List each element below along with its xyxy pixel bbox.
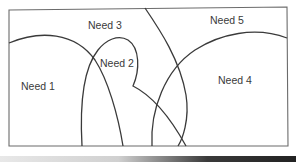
label-need3: Need 3 bbox=[88, 20, 122, 31]
label-need2: Need 2 bbox=[100, 58, 134, 69]
label-need4: Need 4 bbox=[218, 75, 252, 86]
need4-boundary bbox=[152, 32, 287, 146]
need5-boundary bbox=[145, 8, 187, 146]
need2-boundary bbox=[81, 38, 186, 146]
needs-diagram: Need 1 Need 2 Need 3 Need 4 Need 5 bbox=[0, 0, 296, 162]
caption-divider bbox=[0, 156, 296, 162]
label-need5: Need 5 bbox=[210, 15, 244, 26]
label-need1: Need 1 bbox=[21, 81, 55, 92]
